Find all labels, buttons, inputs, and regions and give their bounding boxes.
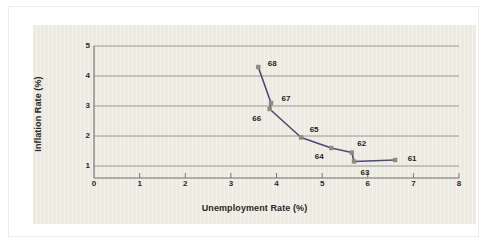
data-point-label: 63 <box>353 168 377 177</box>
x-tick-label: 7 <box>403 179 423 188</box>
x-tick-label: 4 <box>267 179 287 188</box>
data-point-label: 61 <box>400 154 424 163</box>
x-tick-label: 2 <box>175 179 195 188</box>
x-tick-label: 6 <box>358 179 378 188</box>
x-tick-label: 1 <box>130 179 150 188</box>
y-tick-label: 3 <box>70 101 90 110</box>
y-tick-label: 5 <box>70 41 90 50</box>
data-point-label: 65 <box>302 125 326 134</box>
x-axis-title: Unemployment Rate (%) <box>9 203 491 213</box>
data-point-label: 64 <box>307 152 331 161</box>
plot-area: 012345678 12345 6867666564626361 Inflati… <box>9 7 478 236</box>
x-axis-ticks <box>140 173 459 178</box>
y-tick-label: 4 <box>70 71 90 80</box>
x-tick-label: 0 <box>84 179 104 188</box>
x-tick-label: 3 <box>221 179 241 188</box>
data-point-label: 68 <box>260 59 284 68</box>
y-tick-label: 2 <box>70 131 90 140</box>
data-point-label: 62 <box>350 139 374 148</box>
chart-screenshot: 012345678 12345 6867666564626361 Inflati… <box>0 0 491 246</box>
outer-frame: 012345678 12345 6867666564626361 Inflati… <box>8 6 479 237</box>
series-line-path <box>258 67 395 162</box>
x-tick-label: 5 <box>312 179 332 188</box>
series-markers <box>256 65 397 164</box>
y-axis-title: Inflation Rate (%) <box>33 39 43 189</box>
data-point-label: 67 <box>274 94 298 103</box>
data-point-label: 66 <box>245 114 269 123</box>
x-tick-label: 8 <box>449 179 469 188</box>
y-tick-label: 1 <box>70 161 90 170</box>
